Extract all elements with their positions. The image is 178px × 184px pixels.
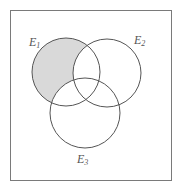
label-e2: E2 [134,34,145,48]
label-e3: E3 [77,153,88,167]
label-e1: E1 [29,36,40,50]
venn-diagram [0,0,178,184]
